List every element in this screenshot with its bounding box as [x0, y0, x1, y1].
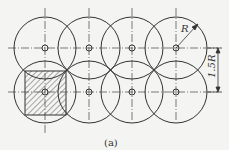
circle-pattern-diagram: R 1.5R (a) [0, 0, 229, 150]
spacing-label: 1.5R [206, 54, 217, 78]
hatched-square [25, 71, 66, 115]
radius-label: R [180, 23, 189, 34]
figure-caption: (a) [104, 137, 118, 148]
